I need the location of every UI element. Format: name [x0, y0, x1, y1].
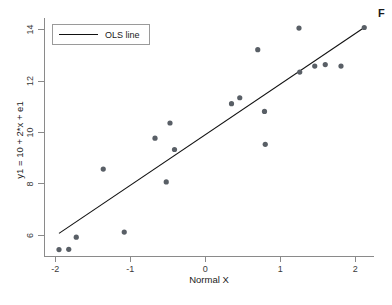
- scatter-plot: 68101214 -2-1012 y1 = 10 + 2*x + e1 Norm…: [0, 0, 392, 305]
- caption-fragment: F: [378, 7, 390, 19]
- chart-canvas: 68101214 -2-1012 y1 = 10 + 2*x + e1 Norm…: [0, 0, 392, 305]
- scatter-point: [297, 69, 302, 74]
- y-axis-title: y1 = 10 + 2*x + e1: [14, 101, 25, 178]
- scatter-point: [262, 109, 267, 114]
- scatter-point: [101, 166, 106, 171]
- scatter-point: [296, 25, 301, 30]
- y-tick-label: 10: [25, 127, 35, 137]
- data-points: [56, 25, 366, 252]
- x-tick-label: -2: [51, 264, 59, 274]
- legend-entry-label: OLS line: [105, 30, 140, 40]
- scatter-point: [255, 47, 260, 52]
- figure-root: 68101214 -2-1012 y1 = 10 + 2*x + e1 Norm…: [0, 0, 392, 305]
- scatter-point: [56, 247, 61, 252]
- scatter-point: [362, 25, 367, 30]
- scatter-point: [229, 101, 234, 106]
- x-tick-label: -1: [126, 264, 134, 274]
- scatter-point: [164, 179, 169, 184]
- y-axis-ticks: 68101214: [25, 25, 44, 238]
- scatter-point: [263, 142, 268, 147]
- y-tick-label: 8: [25, 181, 35, 186]
- scatter-point: [152, 136, 157, 141]
- scatter-point: [237, 95, 242, 100]
- y-tick-label: 12: [25, 76, 35, 86]
- scatter-point: [66, 247, 71, 252]
- scatter-point: [323, 62, 328, 67]
- x-tick-label: 1: [278, 264, 283, 274]
- scatter-point: [312, 64, 317, 69]
- ols-regression-line: [59, 28, 364, 234]
- chart-legend: OLS line: [53, 25, 150, 45]
- scatter-point: [167, 120, 172, 125]
- x-axis-ticks: -2-1012: [51, 256, 358, 274]
- ols-line-path: [59, 28, 364, 234]
- scatter-point: [172, 147, 177, 152]
- x-tick-label: 0: [203, 264, 208, 274]
- scatter-point: [122, 229, 127, 234]
- scatter-point: [338, 64, 343, 69]
- x-tick-label: 2: [353, 264, 358, 274]
- y-tick-label: 6: [25, 233, 35, 238]
- scatter-point: [74, 235, 79, 240]
- x-axis-title: Normal X: [189, 274, 229, 285]
- y-tick-label: 14: [25, 25, 35, 35]
